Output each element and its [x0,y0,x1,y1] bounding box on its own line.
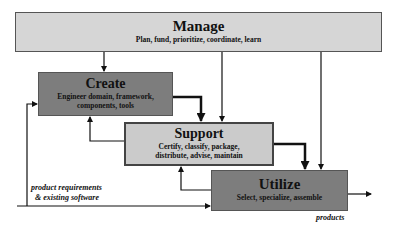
input-label: product requirements & existing software [31,183,102,203]
support-box: Support Certify, classify, package, dist… [124,122,274,166]
utilize-title: Utilize [212,176,347,193]
create-subtitle-line2: components, tools [39,101,172,110]
create-subtitle-line1: Engineer domain, framework, [39,92,172,101]
create-box: Create Engineer domain, framework, compo… [38,72,173,116]
manage-subtitle: Plan, fund, prioritize, coordinate, lear… [16,35,381,44]
output-label: products [316,213,344,223]
utilize-box: Utilize Select, specialize, assemble [211,170,348,211]
input-label-line2: & existing software [31,193,102,203]
create-title: Create [39,76,172,92]
manage-title: Manage [16,18,381,35]
support-subtitle-line1: Certify, classify, package, [126,142,272,151]
manage-box: Manage Plan, fund, prioritize, coordinat… [15,12,382,52]
utilize-subtitle: Select, specialize, assemble [212,193,347,202]
support-subtitle-line2: distribute, advise, maintain [126,151,272,160]
input-label-line1: product requirements [31,183,102,193]
support-title: Support [126,126,272,142]
